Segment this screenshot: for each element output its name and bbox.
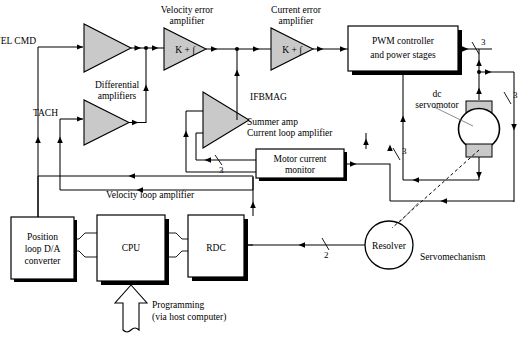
ifbmag-label: IFBMAG [250,92,287,102]
summer-line1: Summer amp [247,117,298,127]
label-velocity-error-amplifier: Velocity error amplifier [161,5,214,26]
dac-line2: loop D/A [25,244,61,254]
programming-arrow: Programming (via host computer) [115,285,226,332]
dac-line1: Position [27,232,58,242]
dac-line3: converter [25,256,62,266]
wire-currerr-to-pwm [313,46,348,52]
vel-cmd-label: VEL CMD [0,36,36,46]
current-error-line1: Current error [271,5,322,15]
current-error-symbol: K + ∫ [282,45,303,56]
programming-line1: Programming [152,300,204,310]
bus-width-motor-current: 3 [219,165,224,175]
servomechanism-label: Servomechanism [420,252,486,262]
velocity-error-symbol: K + ∫ [175,45,196,56]
differential-amps-line2: amplifiers [98,91,137,101]
bus-width-pwm-out: 3 [481,37,486,47]
label-current-error-amplifier: Current error amplifier [271,5,322,26]
position-loop-dac-block: Position loop D/A converter [11,217,77,282]
resolver-label: Resolver [372,241,407,251]
cpu-label: CPU [122,243,141,253]
differential-amps-line1: Differential [95,80,139,90]
pwm-line1: PWM controller [372,36,435,46]
dc-servomotor-line1: dc [433,89,442,99]
wire-resolver-to-rdc: 2 [246,238,365,260]
label-differential-amplifiers: Differential amplifiers [95,80,139,101]
rdc-label: RDC [206,243,226,253]
programming-line2: (via host computer) [152,312,226,323]
current-error-amplifier: K + ∫ [271,28,313,70]
motor-current-monitor-line1: Motor current [273,154,326,164]
figure-canvas: K + ∫ K + ∫ [0,0,530,345]
bus-width-resolver: 2 [324,250,329,260]
differential-amplifier-top [84,24,131,72]
differential-amplifier-bottom [84,100,129,145]
wire-velocity-loop: Velocity loop amplifier [38,173,256,216]
velocity-error-line2: amplifier [170,16,206,26]
rdc-block: RDC [188,215,248,281]
bus-width-pwm-feedback: 3 [402,146,407,156]
pwm-controller-block: PWM controller and power stages [348,26,462,75]
wire-diffamp1-out [131,45,165,51]
label-vel-cmd: VEL CMD [0,36,36,46]
servo-block-diagram: K + ∫ K + ∫ [0,0,530,345]
motor-current-monitor-line2: monitor [285,165,316,175]
label-tach: TACH [33,108,58,118]
pwm-line2: and power stages [370,50,436,60]
velocity-error-amplifier: K + ∫ [164,28,206,70]
tach-label: TACH [33,108,58,118]
velocity-error-line1: Velocity error [161,5,214,15]
motor-current-monitor-block: Motor current monitor [256,149,347,181]
dc-servomotor-line2: servomotor [415,100,459,110]
velocity-loop-label: Velocity loop amplifier [106,190,195,200]
summer-current-loop-amplifier [203,92,249,148]
wire-velerr-out [206,46,272,95]
wire-tach [57,119,83,190]
bus-connector-dac-cpu [74,233,97,257]
current-error-line2: amplifier [279,16,315,26]
cpu-block: CPU [97,215,169,285]
dc-servomotor: dc servomotor [415,89,499,180]
label-summer-amp: Summer amp Current loop amplifier [247,117,333,138]
bus-width-motor-right: 3 [513,90,518,100]
summer-line2: Current loop amplifier [247,128,333,138]
label-ifbmag: IFBMAG [250,92,287,102]
resolver: Resolver Servomechanism [365,150,486,269]
